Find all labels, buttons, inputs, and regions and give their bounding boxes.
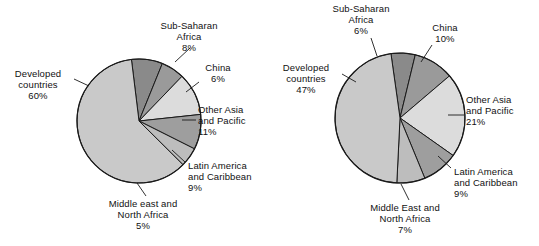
left-value-middle-east: 5% (94, 220, 192, 231)
right-label-other-asia: Other Asiaand Pacific21% (466, 94, 538, 128)
left-label-middle-east-line-1: Middle east and (94, 198, 192, 209)
left-pie-chart: Developedcountries60%Sub-SaharanAfrica8%… (0, 0, 269, 246)
left-label-latin-america-line-2: and Caribbean (188, 171, 272, 182)
left-label-latin-america-line-1: Latin America (188, 160, 272, 171)
left-label-middle-east-line-2: North Africa (94, 209, 192, 220)
left-value-sub-saharan: 8% (150, 42, 228, 53)
right-label-other-asia-line-1: Other Asia (466, 94, 538, 105)
left-label-other-asia: Other Asiaand Pacific11% (198, 104, 270, 138)
left-value-other-asia: 11% (198, 126, 270, 137)
right-label-other-asia-line-2: and Pacific (466, 105, 538, 116)
left-label-developed-line-2: countries (2, 79, 74, 90)
left-label-sub-saharan-line-2: Africa (150, 31, 228, 42)
right-value-sub-saharan: 6% (322, 25, 400, 36)
right-label-sub-saharan-line-2: Africa (322, 14, 400, 25)
leader-developed-line (74, 79, 89, 86)
left-value-developed: 60% (2, 90, 74, 101)
left-value-china: 6% (196, 73, 240, 84)
right-label-middle-east-line-1: Middle East and (356, 202, 454, 213)
left-label-latin-america: Latin Americaand Caribbean9% (188, 160, 272, 194)
right-label-china: China10% (420, 22, 470, 44)
pie-chart-figure: Developedcountries60%Sub-SaharanAfrica8%… (0, 0, 539, 246)
right-value-other-asia: 21% (466, 116, 538, 127)
pie-slice-developed-countries[interactable] (335, 54, 400, 183)
right-label-china-line-1: China (420, 22, 470, 33)
leader-sub-saharan-line (371, 38, 377, 56)
right-label-latin-america-line-1: Latin America (454, 166, 538, 177)
leader-middle-east-line (401, 184, 409, 200)
left-label-developed: Developedcountries60% (2, 68, 74, 102)
right-label-latin-america-line-2: and Caribbean (454, 177, 538, 188)
right-label-middle-east-line-2: North Africa (356, 213, 454, 224)
left-label-china: China6% (196, 62, 240, 84)
right-label-sub-saharan: Sub-SaharanAfrica6% (322, 3, 400, 37)
right-value-latin-america: 9% (454, 188, 538, 199)
right-label-developed-line-2: countries (270, 73, 342, 84)
left-label-other-asia-line-1: Other Asia (198, 104, 270, 115)
right-value-developed: 47% (270, 84, 342, 95)
right-label-sub-saharan-line-1: Sub-Saharan (322, 3, 400, 14)
right-label-developed: Developedcountries47% (270, 62, 342, 96)
left-label-sub-saharan: Sub-SaharanAfrica8% (150, 20, 228, 54)
right-label-middle-east: Middle East andNorth Africa7% (356, 202, 454, 236)
left-label-sub-saharan-line-1: Sub-Saharan (150, 20, 228, 31)
right-label-developed-line-1: Developed (270, 62, 342, 73)
leader-middle-east-line (137, 183, 146, 196)
right-pie-chart: Developedcountries47%Sub-SaharanAfrica6%… (270, 0, 539, 246)
right-label-latin-america: Latin Americaand Caribbean9% (454, 166, 538, 200)
left-label-china-line-1: China (196, 62, 240, 73)
left-label-other-asia-line-2: and Pacific (198, 115, 270, 126)
right-value-china: 10% (420, 33, 470, 44)
right-value-middle-east: 7% (356, 224, 454, 235)
left-value-latin-america: 9% (188, 182, 272, 193)
left-label-developed-line-1: Developed (2, 68, 74, 79)
left-label-middle-east: Middle east andNorth Africa5% (94, 198, 192, 232)
